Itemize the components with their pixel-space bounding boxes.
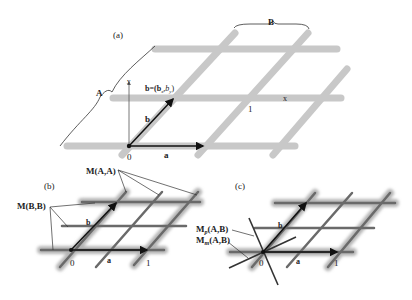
vector-a-label: a xyxy=(107,256,111,265)
origin-point xyxy=(69,248,73,252)
unit-label: 1 xyxy=(334,258,339,268)
b-coordinates-label: b=(bx,by) xyxy=(145,84,175,94)
callout-Mm-AB: Mm(A,B) xyxy=(196,235,230,246)
unit-label: 1 xyxy=(248,104,253,114)
vector-b xyxy=(129,99,173,146)
origin-label: 0 xyxy=(70,258,75,268)
panel-b-label: (b) xyxy=(44,181,55,191)
x-axis-label: x xyxy=(283,94,287,103)
callout-line-Mp xyxy=(232,230,254,236)
panel-a: (a) B A y x b=(bx,by) b a 0 1 xyxy=(60,17,347,162)
origin-point xyxy=(261,250,265,254)
vector-a-label: a xyxy=(164,150,169,160)
panel-b-callouts xyxy=(50,170,197,250)
callout-M-AA: M(A,A) xyxy=(86,166,116,176)
vector-b-label: b xyxy=(278,221,283,230)
unit-label: 1 xyxy=(146,258,151,268)
vector-b-label: b xyxy=(145,114,150,124)
callout-Mp-AB: Mp(A,B) xyxy=(196,224,228,235)
vector-a-label: a xyxy=(296,257,300,266)
brace-B-label: B xyxy=(268,17,274,27)
panel-b: M(A,A) (b) M(B,B) b a 0 1 xyxy=(17,166,200,268)
panel-c: (c) Mp(A,B) Mm(A,B) b a 0 1 xyxy=(196,181,395,285)
panel-c-label: (c) xyxy=(235,181,245,191)
lattice-figure: (a) B A y x b=(bx,by) b a 0 1 xyxy=(0,0,412,300)
origin-point xyxy=(127,144,131,148)
origin-label: 0 xyxy=(127,152,132,162)
origin-label: 0 xyxy=(259,258,264,268)
callout-M-BB: M(B,B) xyxy=(17,201,46,211)
panel-a-label: (a) xyxy=(113,30,123,40)
y-axis-label: y xyxy=(127,77,131,85)
brace-A-label: A xyxy=(96,88,103,98)
vector-b-label: b xyxy=(86,218,91,227)
